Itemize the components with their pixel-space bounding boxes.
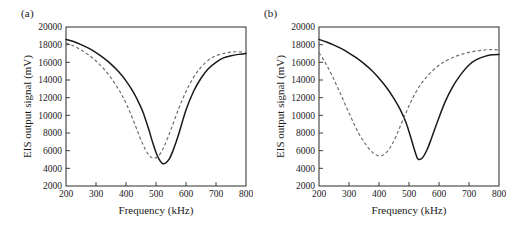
y-tick-label: 6000 <box>296 146 315 156</box>
y-tick-label: 10000 <box>291 111 315 121</box>
x-tick-label: 600 <box>179 189 194 199</box>
y-tick-label: 12000 <box>291 93 315 103</box>
x-axis-title: Frequency (kHz) <box>119 204 194 217</box>
y-tick-label: 4000 <box>296 164 315 174</box>
y-tick-label: 12000 <box>38 93 62 103</box>
y-tick-label: 2000 <box>296 181 315 191</box>
x-tick-label: 500 <box>149 189 164 199</box>
y-tick-label: 18000 <box>291 40 315 50</box>
y-tick-label: 10000 <box>38 111 62 121</box>
x-axis-title: Frequency (kHz) <box>372 204 447 217</box>
y-tick-label: 20000 <box>291 22 315 32</box>
panel-b-plot: 2003004005006007008002000400060008000100… <box>253 0 506 231</box>
x-tick-label: 300 <box>342 189 357 199</box>
x-tick-label: 600 <box>432 189 447 199</box>
y-tick-label: 14000 <box>291 75 315 85</box>
panel-b: (b) 200300400500600700800200040006000800… <box>253 0 506 231</box>
x-tick-label: 700 <box>209 189 224 199</box>
y-tick-label: 16000 <box>38 58 62 68</box>
y-tick-label: 8000 <box>296 128 315 138</box>
y-tick-label: 20000 <box>38 22 62 32</box>
y-axis-title: EIS output signal (mV) <box>21 55 34 158</box>
y-tick-label: 18000 <box>38 40 62 50</box>
x-tick-label: 400 <box>372 189 387 199</box>
x-tick-label: 500 <box>402 189 417 199</box>
x-tick-label: 300 <box>89 189 104 199</box>
y-tick-label: 2000 <box>43 181 62 191</box>
y-tick-label: 16000 <box>291 58 315 68</box>
curve-dashed <box>319 50 499 156</box>
x-tick-label: 700 <box>462 189 477 199</box>
panel-a: (a) 200300400500600700800200040006000800… <box>0 0 253 231</box>
x-tick-label: 800 <box>239 189 253 199</box>
curve-solid <box>319 39 499 159</box>
figure-two-panel-eis: (a) 200300400500600700800200040006000800… <box>0 0 506 231</box>
y-axis-title: EIS output signal (mV) <box>274 55 287 158</box>
x-tick-label: 400 <box>119 189 134 199</box>
y-tick-label: 8000 <box>43 128 62 138</box>
panel-a-plot: 2003004005006007008002000400060008000100… <box>0 0 253 231</box>
y-tick-label: 14000 <box>38 75 62 85</box>
y-tick-label: 4000 <box>43 164 62 174</box>
x-tick-label: 800 <box>492 189 506 199</box>
y-tick-label: 6000 <box>43 146 62 156</box>
